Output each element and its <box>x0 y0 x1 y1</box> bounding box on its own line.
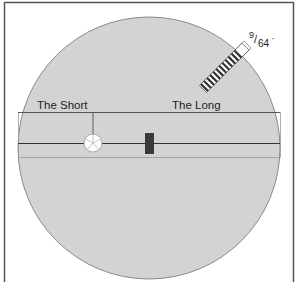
label-the-short: The Short <box>37 99 88 111</box>
fraction-unit: " <box>272 37 274 43</box>
measurement-label: 9 / 64 " <box>249 30 274 49</box>
spindle-hole-icon <box>84 134 102 152</box>
label-the-long: The Long <box>172 99 221 111</box>
tape-diagram: The Short The Long 9 / 64 " <box>0 0 298 292</box>
marker-block <box>145 133 154 154</box>
fraction-denominator: 64 <box>258 38 270 49</box>
